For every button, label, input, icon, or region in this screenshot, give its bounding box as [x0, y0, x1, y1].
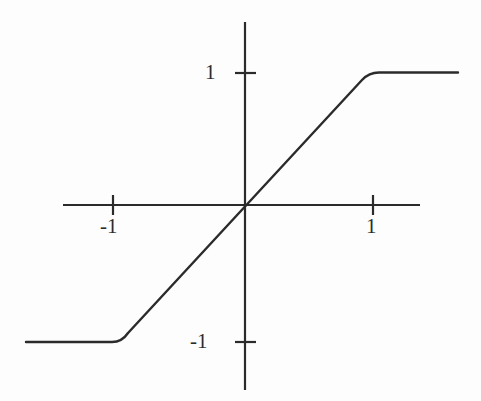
- y-axis-tick-label-positive-one: 1: [205, 62, 216, 83]
- x-axis-tick-label-positive-one: 1: [366, 216, 377, 237]
- saturating-linear-curve: [26, 73, 458, 343]
- x-axis-tick-label-negative-one: -1: [100, 216, 118, 237]
- plot-figure: 1 -1 -1 1: [0, 0, 481, 401]
- y-axis-tick-label-negative-one: -1: [190, 331, 208, 352]
- plot-canvas: [0, 0, 481, 401]
